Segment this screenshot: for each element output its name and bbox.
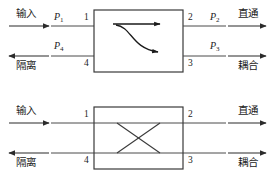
top-port-3-label: 3 xyxy=(188,59,193,69)
top-coupled-path-arrow xyxy=(116,25,158,52)
top-input-label: 输入 xyxy=(16,8,37,19)
bottom-port-3-label: 3 xyxy=(188,156,193,166)
top-port-2-label: 2 xyxy=(188,13,193,23)
top-coupler-box xyxy=(94,10,183,72)
top-power-p1-subscript: 1 xyxy=(60,16,64,24)
bottom-coupled-label: 耦合 xyxy=(238,157,259,168)
bottom-port-2-label: 2 xyxy=(188,110,193,120)
bottom-port-4-label: 4 xyxy=(84,156,89,166)
top-isolated-label: 隔离 xyxy=(16,60,37,71)
bottom-diagram-group xyxy=(9,107,266,169)
top-diagram-group xyxy=(9,10,266,72)
coupler-diagram-graphics xyxy=(0,0,274,179)
top-power-p3-subscript: 3 xyxy=(216,45,220,53)
bottom-isolated-label: 隔离 xyxy=(16,157,37,168)
top-power-p4-label: P4 xyxy=(54,41,64,53)
top-power-p3-label: P3 xyxy=(210,41,220,53)
figure-canvas: 输入 P1 1 P4 4 隔离 2 P2 直通 3 P3 耦合 输入 1 4 隔… xyxy=(0,0,274,179)
bottom-port-1-label: 1 xyxy=(84,110,89,120)
top-port-4-label: 4 xyxy=(84,59,89,69)
top-through-label: 直通 xyxy=(238,8,259,19)
top-power-p4-subscript: 4 xyxy=(60,45,64,53)
top-port-1-label: 1 xyxy=(84,13,89,23)
top-power-p1-label: P1 xyxy=(54,12,64,24)
bottom-input-label: 输入 xyxy=(16,105,37,116)
bottom-through-label: 直通 xyxy=(238,105,259,116)
top-power-p2-label: P2 xyxy=(210,12,220,24)
top-power-p2-subscript: 2 xyxy=(216,16,220,24)
top-coupled-label: 耦合 xyxy=(238,60,259,71)
